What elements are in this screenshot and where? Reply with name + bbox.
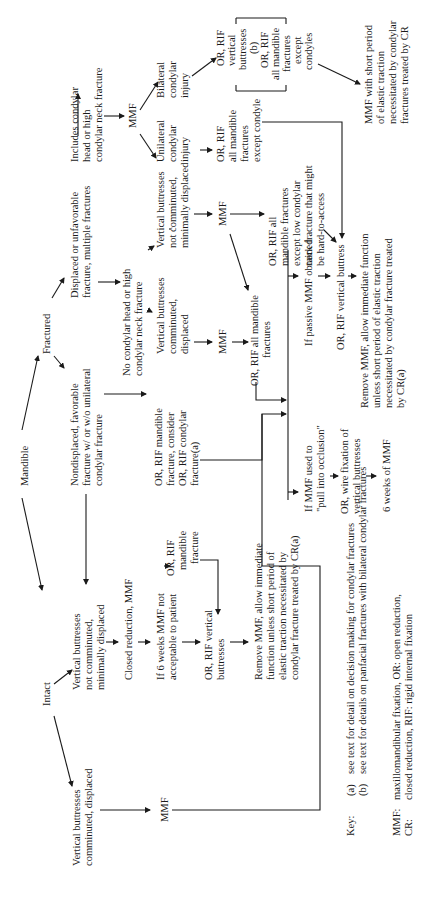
edge-fractured-displaced [52, 278, 64, 298]
flowchart: Mandible Fractured Intact Displaced or u… [0, 0, 436, 906]
node-mmf-mid1: MMF [217, 201, 228, 226]
loop-bracket-bottom [236, 85, 286, 91]
svg-text:OR, RIF verticalbuttresses: OR, RIF verticalbuttresses [203, 610, 226, 680]
svg-text:If passive MMF obtained: If passive MMF obtained [303, 239, 314, 346]
svg-text:If 6 weeks MMF notacceptable t: If 6 weeks MMF notacceptable to patient [155, 593, 178, 680]
node-vb-comminuted-fx: Vertical buttressescomminuted,displaced [155, 277, 190, 354]
node-or-rif-all-except-low: OR, RIF allmandible fracturesexcept low … [267, 165, 326, 266]
edge-or-rif-mandible-vb [200, 560, 218, 614]
svg-text:Bilateralcondylarinjury: Bilateralcondylarinjury [155, 61, 190, 98]
svg-text:Displaced or unfavorablefractu: Displaced or unfavorablefracture, multip… [69, 186, 92, 298]
svg-text:Intact: Intact [41, 682, 52, 706]
node-mandible: Mandible [19, 445, 30, 486]
edge-intact-vbnot [54, 670, 72, 684]
svg-text:No condylar head or highcondyl: No condylar head or highcondylar neck fr… [121, 268, 144, 376]
node-or-rif-mandible-fx: OR, RIFmandiblefracture [165, 531, 200, 576]
svg-text:MMF:: MMF: [391, 808, 402, 836]
edge-bilateral-or-rif [192, 58, 216, 76]
svg-text:see text for details on panfac: see text for details on panfacial fractu… [357, 467, 368, 774]
node-vb-comminuted-intact: Vertical buttressescomminuted, displaced [71, 768, 94, 866]
node-intact: Intact [41, 682, 52, 706]
svg-text:MMF with short periodof elasti: MMF with short periodof elastic traction… [363, 20, 410, 124]
node-if-passive: If passive MMF obtained [303, 239, 314, 346]
edge-or-rif-consider-collector [200, 414, 286, 460]
node-or-rif-all-except-condyle: OR, RIFall mandiblefracturesexcept condy… [215, 98, 262, 162]
svg-text:OR, RIFverticalbuttresses(b)OR: OR, RIFverticalbuttresses(b)OR, RIFall m… [215, 27, 314, 80]
svg-text:CR:: CR: [403, 819, 414, 836]
svg-text:OR, RIFall mandiblefracturesex: OR, RIFall mandiblefracturesexcept condy… [215, 98, 262, 162]
svg-text:see text for detail on decisio: see text for detail on decision making f… [345, 523, 356, 774]
loop-bracket-top [236, 18, 286, 24]
svg-text:OR, RIFmandiblefracture: OR, RIFmandiblefracture [165, 531, 200, 576]
node-remove-mmf-left: Remove MMF, allow immediatefunction unle… [253, 535, 301, 680]
edge-intact-vbcomm [54, 716, 72, 786]
svg-text:(a): (a) [345, 784, 357, 796]
edge-or-rif-all-to-collector [256, 382, 286, 400]
node-mmf-bottom: MMF [159, 797, 170, 822]
svg-text:Vertical buttressesnot comminu: Vertical buttressesnot comminuted,minima… [71, 604, 106, 690]
svg-text:OR, RIF vertical buttress: OR, RIF vertical buttress [335, 244, 346, 350]
node-bilateral: Bilateralcondylarinjury [155, 61, 190, 98]
svg-text:OR, RIF mandiblefracture, cons: OR, RIF mandiblefracture, considerOR, RI… [153, 408, 201, 486]
node-vb-not-comminuted-fx: Vertical buttressesnot comminuted,minima… [155, 162, 190, 248]
svg-text:maxillomandibular fixation, OR: maxillomandibular fixation, OR: open red… [391, 594, 402, 800]
node-remove-mmf-right: Remove MMF, allow immediate functionunle… [359, 233, 407, 408]
edge-mandible-fractured [22, 356, 38, 430]
edge-mmf-unilateral [140, 134, 156, 158]
edge-mmf1-or-rif-all [230, 234, 248, 290]
node-or-rif-vertical-buttress: OR, RIF vertical buttress [335, 244, 346, 350]
svg-text:MMF: MMF [127, 103, 138, 128]
key: Key: (a) see text for detail on decision… [345, 467, 414, 836]
node-no-condylar: No condylar head or highcondylar neck fr… [121, 268, 144, 376]
svg-text:OR, RIF all mandiblefractures: OR, RIF all mandiblefractures [249, 295, 272, 386]
svg-text:If MMF used to"pull into occlu: If MMF used to"pull into occlusion" [303, 425, 326, 512]
svg-text:MMF: MMF [217, 329, 228, 354]
svg-text:Closed reduction, MMF: Closed reduction, MMF [123, 579, 134, 680]
node-displaced: Displaced or unfavorablefracture, multip… [69, 186, 92, 298]
node-or-rif-all-mandible: OR, RIF all mandiblefractures [249, 295, 272, 386]
svg-text:MMF: MMF [217, 201, 228, 226]
node-mmf-top: MMF [127, 103, 138, 128]
svg-text:MMF: MMF [159, 797, 170, 822]
key-label: Key: [345, 816, 356, 836]
svg-text:Nondisplaced, favorablefractur: Nondisplaced, favorablefracture w/ or w/… [69, 368, 104, 486]
node-mmf-mid2: MMF [217, 329, 228, 354]
node-includes-condylar: Includes condylarhead or highcondylar ne… [69, 67, 104, 162]
edge-nocondylar-vbnot [148, 246, 154, 250]
node-or-rif-vertical-b: OR, RIFverticalbuttresses(b)OR, RIFall m… [215, 27, 314, 80]
node-if-mmf-pull: If MMF used to"pull into occlusion" [303, 425, 326, 512]
node-if-6-weeks: If 6 weeks MMF notacceptable to patient [155, 593, 178, 680]
svg-text:Mandible: Mandible [19, 445, 30, 486]
svg-text:OR, RIF allmandible fracturese: OR, RIF allmandible fracturesexcept low … [267, 165, 326, 266]
svg-text:closed reduction, RIF: rigid i: closed reduction, RIF: rigid internal fi… [403, 613, 414, 800]
svg-text:Unilateralcondylarinjury: Unilateralcondylarinjury [155, 120, 190, 162]
node-or-rif-vb-intact: OR, RIF verticalbuttresses [203, 610, 226, 680]
svg-text:Vertical buttressescomminuted,: Vertical buttressescomminuted, displaced [71, 768, 94, 866]
edge-nocondylar-vbcomm [148, 310, 152, 312]
svg-text:6 weeks of MMF: 6 weeks of MMF [381, 439, 392, 512]
svg-text:Remove MMF, allow immediate f: Remove MMF, allow immediate functionunle… [359, 233, 407, 408]
node-closed-reduction: Closed reduction, MMF [123, 579, 134, 680]
node-mmf-short-period: MMF with short periodof elastic traction… [363, 20, 410, 124]
edge-or-rif-b-mmf-short [318, 64, 360, 84]
node-vb-not-comminuted-intact: Vertical buttressesnot comminuted,minima… [71, 604, 106, 690]
node-six-weeks: 6 weeks of MMF [381, 439, 392, 512]
svg-text:(b): (b) [357, 783, 369, 796]
node-or-rif-consider: OR, RIF mandiblefracture, considerOR, RI… [153, 408, 201, 486]
edge-fractured-nondisplaced [54, 356, 64, 368]
svg-text:Includes condylarhead or highc: Includes condylarhead or highcondylar ne… [69, 67, 104, 162]
svg-text:Vertical buttressesnot comminu: Vertical buttressesnot comminuted,minima… [155, 162, 190, 248]
node-fractured: Fractured [41, 313, 52, 354]
edge-mandible-intact [22, 498, 42, 590]
node-unilateral: Unilateralcondylarinjury [155, 120, 190, 162]
svg-text:Vertical buttressescomminuted,: Vertical buttressescomminuted,displaced [155, 277, 190, 354]
svg-text:Remove MMF, allow immediatefun: Remove MMF, allow immediatefunction unle… [253, 535, 301, 680]
node-nondisplaced: Nondisplaced, favorablefracture w/ or w/… [69, 368, 104, 486]
svg-text:Fractured: Fractured [41, 313, 52, 354]
